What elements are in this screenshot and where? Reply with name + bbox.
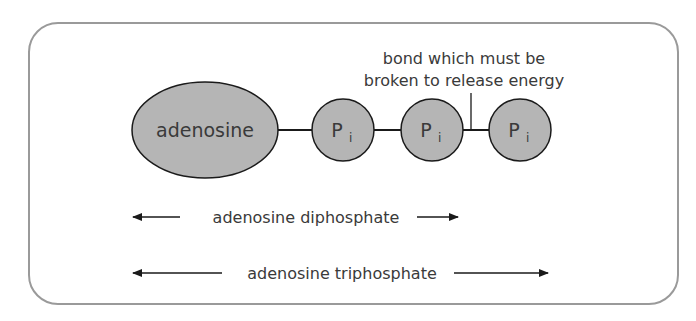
phosphate-subscript: i xyxy=(438,131,441,145)
phosphate-label: P xyxy=(420,119,431,141)
annotation-line-1: bond which must be xyxy=(383,49,545,68)
annotation-line-2: broken to release energy xyxy=(364,71,564,90)
phosphate-subscript: i xyxy=(526,131,529,145)
atp-label: adenosine triphosphate xyxy=(247,264,437,283)
adenosine-label: adenosine xyxy=(156,119,254,141)
adp-label: adenosine diphosphate xyxy=(213,208,400,227)
phosphate-node-3: P i xyxy=(489,99,551,161)
atp-diagram: adenosine P i P i P i bond which must be… xyxy=(0,0,696,321)
phosphate-subscript: i xyxy=(349,131,352,145)
phosphate-label: P xyxy=(331,119,342,141)
phosphate-label: P xyxy=(508,119,519,141)
phosphate-node-1: P i xyxy=(312,99,374,161)
phosphate-node-2: P i xyxy=(401,99,463,161)
